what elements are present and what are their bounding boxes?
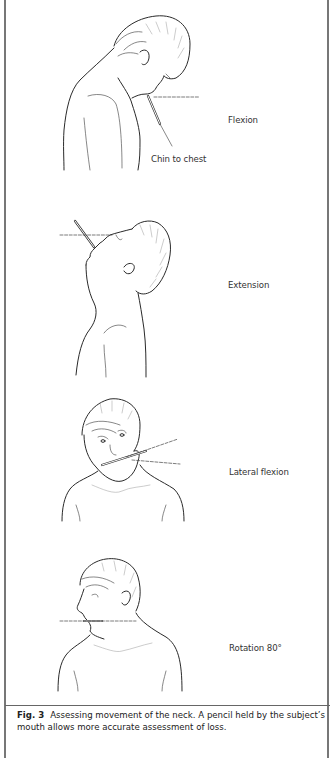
figure-number: Fig. 3 [17,710,44,720]
panel-flexion: Flexion Chin to chest [6,0,329,195]
label-flexion: Flexion [228,115,258,125]
panel-extension: Extension [6,195,329,385]
panel-lateral-flexion: Lateral flexion [6,385,329,535]
caption-text: Assessing movement of the neck. A pencil… [17,710,325,732]
panel-rotation: Rotation 80° [6,535,329,703]
flexion-illustration [6,0,329,195]
rotation-illustration [6,535,329,703]
extension-illustration [6,195,329,385]
lateral-flexion-illustration [6,385,329,535]
label-extension: Extension [228,280,269,290]
label-chin-to-chest: Chin to chest [151,154,206,164]
label-rotation: Rotation 80° [229,643,282,653]
label-lateral-flexion: Lateral flexion [229,467,289,477]
figure-caption: Fig. 3Assessing movement of the neck. A … [17,709,329,733]
caption-divider [5,705,330,706]
